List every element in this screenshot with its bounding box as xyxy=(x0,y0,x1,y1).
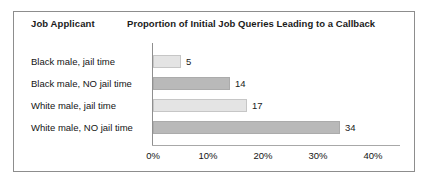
category-label-black-male-no-jail-time: Black male, NO jail time xyxy=(31,78,132,89)
x-tick-label-30: 30% xyxy=(308,150,327,161)
bar-black-male-no-jail-time xyxy=(153,77,230,90)
x-axis-line xyxy=(152,145,400,146)
category-label-white-male-no-jail-time: White male, NO jail time xyxy=(31,122,133,133)
x-tick-label-0: 0% xyxy=(146,150,160,161)
bar-value-black-male-jail-time: 5 xyxy=(186,56,191,67)
bar-value-black-male-no-jail-time: 14 xyxy=(235,78,246,89)
bar-white-male-jail-time xyxy=(153,99,247,112)
bar-value-white-male-no-jail-time: 34 xyxy=(345,122,356,133)
bar-white-male-no-jail-time xyxy=(153,121,340,134)
chart-header: Job Applicant Proportion of Initial Job … xyxy=(14,12,414,40)
chart-title: Proportion of Initial Job Queries Leadin… xyxy=(127,18,375,29)
column-header-job-applicant: Job Applicant xyxy=(31,18,95,29)
plot-area: Black male, jail time Black male, NO jai… xyxy=(14,40,414,172)
bar-black-male-jail-time xyxy=(153,55,181,68)
category-label-white-male-jail-time: White male, jail time xyxy=(31,100,116,111)
category-label-black-male-jail-time: Black male, jail time xyxy=(31,56,115,67)
chart-figure: Job Applicant Proportion of Initial Job … xyxy=(13,11,415,172)
x-tick-label-10: 10% xyxy=(198,150,217,161)
bar-value-white-male-jail-time: 17 xyxy=(252,100,263,111)
x-tick-label-20: 20% xyxy=(253,150,272,161)
x-tick-label-40: 40% xyxy=(363,150,382,161)
